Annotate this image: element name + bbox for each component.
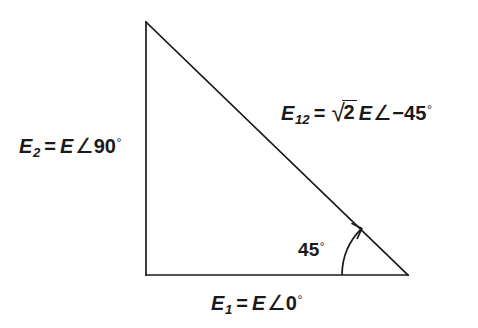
hypotenuse-symbol: E <box>281 102 294 124</box>
degree-icon: ° <box>117 136 122 150</box>
phasor-triangle-figure: E12=√2E∠−45° E2=E∠90° E1=E∠0° 45° <box>0 0 478 328</box>
interior-angle-label: 45° <box>298 240 325 259</box>
square-root-group: √2 <box>331 100 356 124</box>
degree-icon: ° <box>427 103 432 117</box>
vertical-leg-subscript: 2 <box>33 145 40 160</box>
hypotenuse-angle-value: 45 <box>404 102 426 124</box>
horizontal-leg-symbol: E <box>211 292 224 314</box>
vertical-leg-magnitude: E <box>60 135 73 157</box>
hypotenuse-subscript: 12 <box>295 112 310 127</box>
vertical-leg-label: E2=E∠90° <box>19 135 122 159</box>
horizontal-leg-equals: = <box>236 292 248 314</box>
vertical-leg-symbol: E <box>19 135 32 157</box>
hypotenuse-line <box>146 22 408 275</box>
hypotenuse-label: E12=√2E∠−45° <box>281 100 432 126</box>
horizontal-leg-magnitude: E <box>252 292 265 314</box>
triangle-drawing <box>0 0 478 328</box>
hypotenuse-magnitude: E <box>359 102 372 124</box>
horizontal-leg-label: E1=E∠0° <box>211 292 302 316</box>
interior-angle-value: 45 <box>298 239 319 260</box>
angle-arc-arrowhead <box>352 224 362 239</box>
radicand-value: 2 <box>342 100 356 122</box>
hypotenuse-angle-sign: − <box>392 102 404 124</box>
vertical-leg-angle-value: 90 <box>94 135 116 157</box>
degree-icon: ° <box>320 239 325 252</box>
angle-icon: ∠ <box>267 291 286 314</box>
horizontal-leg-subscript: 1 <box>225 302 232 317</box>
hypotenuse-equals: = <box>314 102 326 124</box>
angle-icon: ∠ <box>373 101 392 124</box>
horizontal-leg-angle-value: 0 <box>286 292 297 314</box>
angle-icon: ∠ <box>75 134 94 157</box>
vertical-leg-equals: = <box>44 135 56 157</box>
degree-icon: ° <box>297 293 302 307</box>
